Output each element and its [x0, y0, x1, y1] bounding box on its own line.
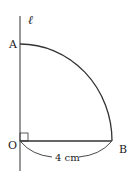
- radius-length-label: 4 cm: [55, 152, 80, 163]
- dimension-brace-left: [21, 142, 52, 157]
- right-angle-mark: [20, 133, 28, 141]
- line-label: ℓ: [28, 13, 33, 27]
- quarter-circle-diagram: ℓ A O B 4 cm: [0, 0, 135, 181]
- point-label-o: O: [8, 139, 17, 152]
- quarter-arc: [20, 44, 112, 141]
- dimension-brace-right: [79, 142, 111, 157]
- point-label-b: B: [119, 143, 127, 156]
- point-label-a: A: [8, 38, 18, 51]
